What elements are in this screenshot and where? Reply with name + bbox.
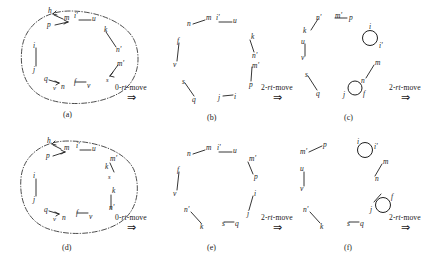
op-arrow-a-b: ⇒ bbox=[127, 92, 136, 103]
node-c-j: j bbox=[343, 91, 345, 99]
arrowhead-a-m2 bbox=[110, 72, 114, 77]
node-a-h: h bbox=[48, 7, 52, 15]
node-d-k: k bbox=[105, 163, 108, 171]
edge-c-mn bbox=[366, 65, 374, 78]
edge-d-mk bbox=[110, 163, 114, 172]
node-d-n: n bbox=[62, 214, 66, 222]
node-a-f: f bbox=[74, 78, 76, 86]
node-d-k2: k bbox=[112, 187, 115, 195]
node-d-mp: m' bbox=[110, 155, 117, 163]
node-e-m: m bbox=[206, 144, 211, 152]
node-f-np: n' bbox=[303, 206, 308, 214]
node-d-j: j bbox=[33, 196, 35, 204]
node-c-k: k bbox=[303, 27, 306, 35]
edge-a-kn bbox=[106, 32, 116, 47]
node-e-ip: i' bbox=[217, 144, 221, 152]
node-d-f: f bbox=[76, 209, 78, 217]
node-a-i: i bbox=[33, 42, 35, 50]
ring-f-i bbox=[358, 143, 373, 158]
edge-e-mp bbox=[248, 162, 253, 174]
edge-d-hm bbox=[53, 145, 61, 149]
node-b-q: q bbox=[192, 96, 196, 104]
arrowhead-a-h bbox=[53, 11, 57, 15]
node-a-mp: m' bbox=[117, 60, 124, 68]
node-b-u: u bbox=[233, 17, 237, 25]
node-c-n: n bbox=[361, 77, 365, 85]
edge-b-fv bbox=[177, 43, 179, 61]
ring-c-j bbox=[348, 81, 362, 95]
arrowhead-d-h bbox=[52, 141, 56, 145]
stroke-layer bbox=[0, 0, 441, 272]
edge-b-nm bbox=[193, 20, 205, 24]
node-a-p: p bbox=[47, 21, 51, 29]
op-arrow-c-next: ⇒ bbox=[401, 92, 410, 103]
node-a-q: q bbox=[44, 75, 48, 83]
node-b-k: k bbox=[251, 33, 254, 41]
node-d-ip: i' bbox=[76, 142, 80, 150]
node-d-m: m bbox=[64, 144, 69, 152]
node-d-v2: v bbox=[89, 213, 92, 221]
node-e-q: q bbox=[235, 220, 239, 228]
node-c-v: v bbox=[301, 54, 304, 62]
edge-c-sq bbox=[308, 76, 317, 90]
node-c-ip: i' bbox=[379, 42, 383, 50]
edge-f-mp bbox=[309, 146, 322, 152]
node-f-mp: m' bbox=[300, 148, 307, 156]
node-c-u: u bbox=[301, 38, 305, 46]
node-d-u: u bbox=[92, 145, 96, 153]
edge-a-pm bbox=[55, 22, 68, 25]
node-f-s: s bbox=[347, 220, 350, 228]
node-e-f: f bbox=[177, 166, 179, 174]
node-e-j: j bbox=[247, 210, 249, 218]
edge-e-fv bbox=[177, 172, 179, 190]
node-a-m: m bbox=[64, 14, 69, 22]
node-f-k: k bbox=[320, 223, 323, 231]
node-e-np: n' bbox=[184, 206, 189, 214]
op-arrow-d-e: ⇒ bbox=[127, 222, 136, 233]
caption-e: (e) bbox=[207, 243, 216, 252]
node-c-q: q bbox=[316, 90, 320, 98]
node-b-f: f bbox=[177, 37, 179, 45]
edge-f-nk bbox=[310, 212, 320, 223]
node-b-m: m bbox=[206, 14, 211, 22]
node-e-mp: m' bbox=[249, 155, 256, 163]
node-f-u: u bbox=[300, 165, 304, 173]
node-b-mp: m' bbox=[252, 62, 259, 70]
node-e-v: v bbox=[173, 190, 176, 198]
node-d-np: n' bbox=[109, 204, 114, 212]
node-a-s: s bbox=[106, 77, 109, 84]
node-e-k: k bbox=[200, 223, 203, 231]
node-b-j: j bbox=[218, 94, 220, 102]
node-e-u: u bbox=[233, 147, 237, 155]
node-f-i: i bbox=[357, 138, 359, 146]
node-c-p: p bbox=[349, 14, 353, 22]
node-f-m: m bbox=[383, 158, 388, 166]
node-b-v: v bbox=[173, 61, 176, 69]
node-f-p: p bbox=[323, 141, 327, 149]
node-f-jp: f bbox=[391, 193, 393, 201]
node-a-n: n bbox=[61, 83, 65, 91]
caption-b: (b) bbox=[207, 113, 216, 122]
node-e-i: i bbox=[254, 190, 256, 198]
node-b-np: n' bbox=[252, 52, 257, 60]
node-d-s: s bbox=[108, 174, 111, 181]
op-arrow-f-next: ⇒ bbox=[401, 222, 410, 233]
node-d-i: i bbox=[33, 172, 35, 180]
node-a-v2: v bbox=[87, 82, 90, 90]
node-c-np: n' bbox=[316, 14, 321, 22]
node-f-v: v bbox=[300, 185, 303, 193]
node-a-k: k bbox=[104, 26, 107, 34]
caption-c: (c) bbox=[344, 113, 353, 122]
node-b-s: s bbox=[182, 78, 185, 86]
node-d-p: p bbox=[46, 152, 50, 160]
node-f-j: j bbox=[370, 206, 372, 214]
edge-b-ji bbox=[223, 95, 233, 96]
node-d-v: v bbox=[53, 216, 56, 223]
node-a-np: n' bbox=[116, 46, 121, 54]
op-arrow-e-f: ⇒ bbox=[273, 222, 282, 233]
op-arrow-b-c: ⇒ bbox=[273, 92, 282, 103]
node-f-ip: i' bbox=[374, 143, 378, 151]
node-a-v: v bbox=[53, 85, 56, 92]
edge-a-hm bbox=[54, 15, 63, 19]
node-c-i: i bbox=[369, 23, 371, 31]
